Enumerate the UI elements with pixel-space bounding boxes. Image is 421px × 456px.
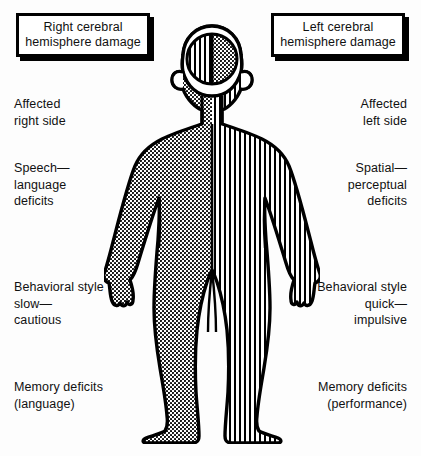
label-behavioral-style-slow-cautious: Behavioral style slow— cautious [14,279,104,329]
label-behavioral-style-quick-impulsive: Behavioral style quick— impulsive [317,279,407,329]
human-body-figure-icon [104,20,320,444]
left-arm-inner-contour [159,198,160,248]
label-spatial-perceptual-deficits: Spatial— perceptual deficits [348,160,407,210]
label-affected-right-side: Affected right side [14,96,66,129]
label-speech-language-deficits: Speech— language deficits [14,160,70,210]
right-ear [241,71,252,89]
label-affected-left-side: Affected left side [361,96,407,129]
diagram-canvas: Right cerebral hemisphere damage Left ce… [0,0,421,456]
label-memory-deficits-performance: Memory deficits (performance) [318,379,407,412]
left-ear [172,71,183,89]
right-arm-inner-contour [264,198,265,248]
label-memory-deficits-language: Memory deficits (language) [14,379,103,412]
